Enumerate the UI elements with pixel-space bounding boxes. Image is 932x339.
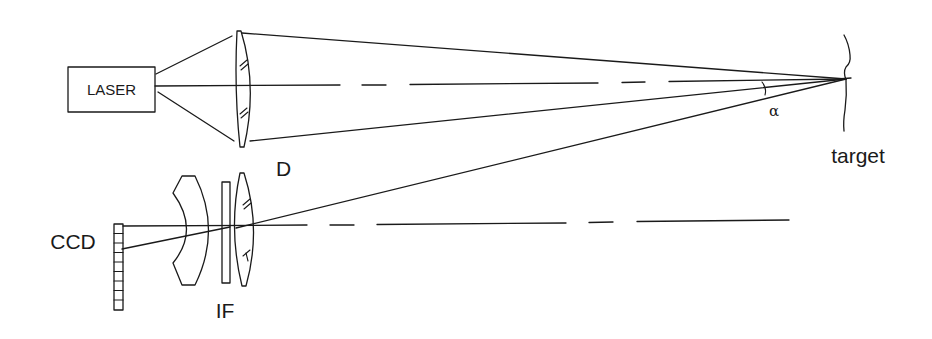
lens-d-outline [236, 31, 250, 147]
laser-label: LASER [87, 81, 136, 98]
ccd-label: CCD [50, 230, 96, 253]
meniscus-lens [173, 176, 209, 285]
optical-diagram: LASER D α target [0, 0, 932, 339]
laser-beam-converging [242, 33, 846, 141]
angle-arc [762, 82, 766, 95]
lens-d-label: D [276, 157, 291, 180]
receiving-lens [234, 173, 253, 286]
ccd-array: CCD [50, 224, 123, 310]
receiver-optical-axis [123, 220, 789, 226]
angle-alpha: α [762, 82, 779, 120]
angle-alpha-label: α [769, 102, 779, 120]
target-label: target [831, 144, 885, 167]
laser-source: LASER [68, 67, 155, 112]
laser-beam-diverging [156, 36, 234, 141]
meniscus-lens-outline [173, 176, 209, 285]
target-surface [844, 35, 851, 131]
target: target [831, 35, 885, 167]
filter-label: IF [216, 299, 235, 322]
receiving-lens-outline [234, 173, 253, 286]
ccd-outline [114, 224, 123, 310]
laser-optical-axis [155, 79, 846, 86]
interference-filter: IF [216, 182, 235, 322]
lens-d: D [236, 31, 291, 180]
filter-plate [222, 182, 230, 283]
